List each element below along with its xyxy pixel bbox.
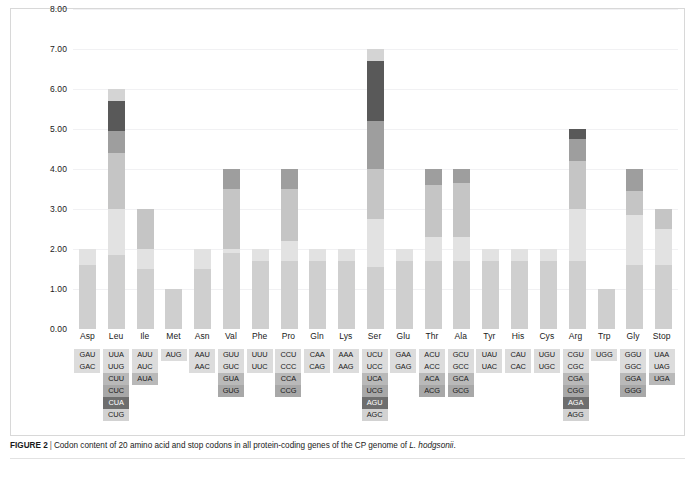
bar-column-arg[interactable]: [563, 9, 592, 329]
bar-column-gly[interactable]: [620, 9, 649, 329]
bar-column-phe[interactable]: [246, 9, 275, 329]
codon-cell-empty: [74, 409, 100, 421]
x-axis-label-met: Met: [159, 331, 188, 347]
y-axis: 0.001.002.003.004.005.006.007.008.00: [11, 9, 73, 329]
codon-cell-empty: [189, 409, 215, 421]
codon-cell: UUA: [103, 349, 129, 361]
codon-table: GAUGACUUAUUGCUUCUCCUACUGAUUAUCAUAAUGAAUA…: [73, 349, 676, 433]
bar-segment: [396, 261, 413, 329]
bar-segment: [367, 49, 384, 61]
codon-cell: CUU: [103, 373, 129, 385]
bar-stack: [626, 169, 643, 329]
bar-segment: [79, 249, 96, 265]
codon-cell-empty: [74, 397, 100, 409]
codon-cell-empty: [505, 397, 531, 409]
codon-column-trp: UGG: [590, 349, 619, 433]
codon-cell-empty: [390, 409, 416, 421]
bar-segment: [137, 269, 154, 329]
codon-cell: GGA: [620, 373, 646, 385]
x-axis-label-pro: Pro: [274, 331, 303, 347]
codon-cell-empty: [591, 361, 617, 373]
bar-segment: [511, 249, 528, 261]
bar-column-asn[interactable]: [188, 9, 217, 329]
bar-column-tyr[interactable]: [476, 9, 505, 329]
bar-column-ala[interactable]: [448, 9, 477, 329]
bar-column-lys[interactable]: [332, 9, 361, 329]
bar-stack: [223, 169, 240, 329]
bar-column-trp[interactable]: [592, 9, 621, 329]
bar-column-stop[interactable]: [649, 9, 678, 329]
bar-column-pro[interactable]: [275, 9, 304, 329]
codon-cell-empty: [304, 397, 330, 409]
bar-column-val[interactable]: [217, 9, 246, 329]
codon-cell-empty: [591, 397, 617, 409]
codon-column-asn: AAUAAC: [188, 349, 217, 433]
codon-column-cys: UGUUGC: [533, 349, 562, 433]
bar-segment: [453, 237, 470, 261]
bar-segment: [108, 131, 125, 153]
bars-layer: [73, 9, 678, 329]
bar-segment: [281, 169, 298, 189]
codon-column-val: GUUGUCGUAGUG: [217, 349, 246, 433]
codon-cell-empty: [390, 397, 416, 409]
bar-column-thr[interactable]: [419, 9, 448, 329]
bar-segment: [108, 209, 125, 255]
codon-cell-empty: [505, 409, 531, 421]
codon-cell-empty: [390, 373, 416, 385]
bar-segment: [252, 249, 269, 261]
bar-column-ile[interactable]: [131, 9, 160, 329]
codon-cell: UAA: [649, 349, 675, 361]
codon-cell: CUC: [103, 385, 129, 397]
codon-cell: CAA: [304, 349, 330, 361]
codon-cell-empty: [161, 373, 187, 385]
codon-column-ser: UCUUCCUCAUCGAGUAGC: [360, 349, 389, 433]
x-axis-label-glu: Glu: [389, 331, 418, 347]
bar-segment: [453, 169, 470, 183]
bar-segment: [281, 189, 298, 241]
bar-stack: [569, 129, 586, 329]
bar-column-his[interactable]: [505, 9, 534, 329]
codon-cell-empty: [476, 397, 502, 409]
bar-segment: [540, 249, 557, 261]
codon-cell: GCC: [448, 361, 474, 373]
bar-stack: [194, 249, 211, 329]
codon-cell: CCC: [275, 361, 301, 373]
codon-cell: UUC: [247, 361, 273, 373]
codon-column-ile: AUUAUCAUA: [130, 349, 159, 433]
bar-column-gln[interactable]: [304, 9, 333, 329]
codon-cell: AGU: [362, 397, 388, 409]
codon-cell: GGC: [620, 361, 646, 373]
bar-column-asp[interactable]: [73, 9, 102, 329]
bar-column-cys[interactable]: [534, 9, 563, 329]
bar-segment: [425, 185, 442, 237]
codon-cell: CUG: [103, 409, 129, 421]
bar-segment: [194, 269, 211, 329]
bar-segment: [626, 265, 643, 329]
bar-segment: [137, 249, 154, 269]
codon-cell: GAU: [74, 349, 100, 361]
codon-cell: UGC: [534, 361, 560, 373]
codon-column-asp: GAUGAC: [73, 349, 102, 433]
codon-cell: GUC: [218, 361, 244, 373]
bar-segment: [540, 261, 557, 329]
bar-column-leu[interactable]: [102, 9, 131, 329]
codon-cell-empty: [505, 373, 531, 385]
bar-column-met[interactable]: [159, 9, 188, 329]
figure-panel: 0.001.002.003.004.005.006.007.008.00 Asp…: [10, 8, 685, 436]
figure-caption: FIGURE 2|Codon content of 20 amino acid …: [10, 440, 685, 452]
bar-column-ser[interactable]: [361, 9, 390, 329]
codon-cell-empty: [247, 373, 273, 385]
codon-cell: UGA: [649, 373, 675, 385]
bar-segment: [165, 289, 182, 329]
x-axis-label-stop: Stop: [647, 331, 676, 347]
codon-cell-empty: [132, 409, 158, 421]
x-axis-label-leu: Leu: [102, 331, 131, 347]
bar-segment: [482, 249, 499, 261]
y-axis-tick-7-00: 7.00: [50, 44, 67, 54]
codon-cell: GUG: [218, 385, 244, 397]
bar-column-glu[interactable]: [390, 9, 419, 329]
codon-cell: UUU: [247, 349, 273, 361]
codon-cell-empty: [448, 409, 474, 421]
codon-cell: UUG: [103, 361, 129, 373]
codon-column-arg: CGUCGCCGACGGAGAAGG: [561, 349, 590, 433]
